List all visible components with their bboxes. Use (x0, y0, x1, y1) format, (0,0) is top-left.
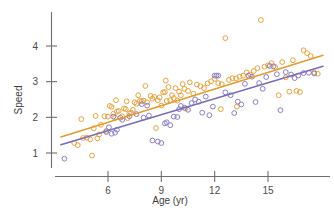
data-point (260, 86, 265, 91)
data-point (223, 36, 228, 41)
data-point (290, 58, 295, 63)
data-point (79, 117, 84, 122)
data-point (207, 113, 212, 118)
data-point (114, 98, 119, 103)
data-point (258, 18, 263, 23)
data-point (218, 107, 223, 112)
data-point (124, 99, 129, 104)
data-point (203, 94, 208, 99)
x-axis-title: Age (yr) (152, 195, 188, 206)
scatter-plot: 1234 691215 Age (yr) Speed (0, 0, 334, 215)
data-point (223, 90, 228, 95)
data-point (232, 111, 237, 116)
data-point (168, 123, 173, 128)
y-axis-ticks: 1234 (32, 41, 57, 159)
data-point (163, 78, 168, 83)
data-point (145, 103, 150, 108)
data-point (180, 82, 185, 87)
data-point (154, 126, 159, 131)
data-point (239, 102, 244, 107)
data-point (283, 70, 288, 75)
data-point (106, 125, 111, 130)
data-point (255, 66, 260, 71)
y-tick-label: 3 (32, 76, 38, 87)
regression-line-purple (61, 66, 323, 144)
data-point (136, 93, 141, 98)
data-point (143, 84, 148, 89)
x-tick-label: 15 (262, 185, 274, 196)
data-point (276, 93, 281, 98)
y-tick-label: 2 (32, 112, 38, 123)
series-purple-markers (62, 64, 317, 162)
y-tick-label: 4 (32, 41, 38, 52)
data-point (166, 85, 171, 90)
x-tick-label: 12 (209, 185, 221, 196)
data-point (187, 80, 192, 85)
data-point (242, 81, 247, 86)
y-tick-label: 1 (32, 148, 38, 159)
data-point (150, 138, 155, 143)
data-point (90, 153, 95, 158)
chart-figure: 1234 691215 Age (yr) Speed (0, 0, 334, 215)
data-point (62, 156, 67, 161)
data-point (308, 54, 313, 59)
data-point (200, 110, 205, 115)
y-axis-title: Speed (13, 86, 24, 115)
data-point (93, 114, 98, 119)
data-point (210, 104, 215, 109)
data-point (274, 72, 279, 77)
data-point (253, 100, 258, 105)
data-point (278, 108, 283, 113)
x-axis-ticks: 691215 (105, 171, 274, 196)
series-orange-markers (72, 18, 320, 158)
x-tick-label: 6 (105, 185, 111, 196)
data-point (287, 89, 292, 94)
regression-line-orange (61, 55, 323, 137)
data-point (264, 75, 269, 80)
data-point (280, 60, 285, 65)
